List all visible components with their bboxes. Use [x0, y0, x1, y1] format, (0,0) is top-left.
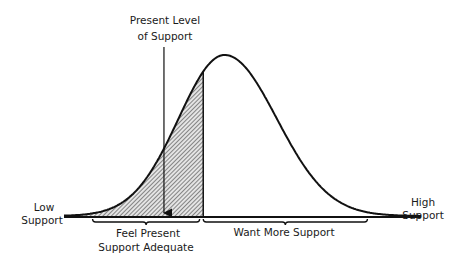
- present-level-label-line1: Present Level: [130, 14, 200, 26]
- high-support-label-line1: High: [411, 196, 435, 208]
- diagram: Present Level of Support Low Support Hig…: [0, 0, 451, 266]
- low-support-label-line1: Low: [34, 201, 55, 213]
- bracket-want-more: [203, 219, 367, 225]
- low-support-label-line2: Support: [21, 214, 63, 226]
- bracket-feel-adequate: [93, 219, 200, 225]
- present-level-label-line2: of Support: [138, 30, 193, 42]
- feel-adequate-label-line2: Support Adequate: [98, 241, 193, 253]
- high-support-label-line2: Support: [402, 209, 444, 221]
- feel-adequate-label-line1: Feel Present: [116, 227, 180, 239]
- want-more-label: Want More Support: [233, 226, 334, 238]
- distribution-curve: [64, 55, 421, 216]
